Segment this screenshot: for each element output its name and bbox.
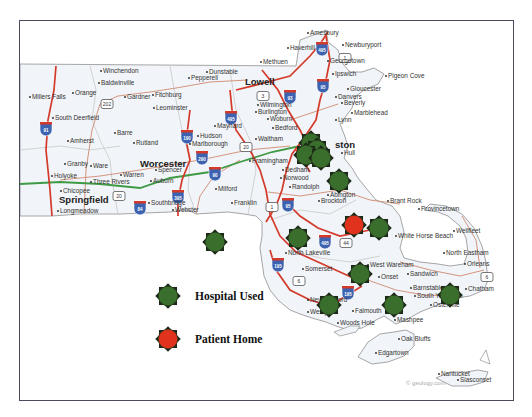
route-shield: 6 bbox=[293, 277, 305, 286]
legend: Hospital UsedPatient Home bbox=[155, 283, 264, 352]
city-label: Woods Hole bbox=[340, 319, 375, 326]
city-label: Falmouth bbox=[355, 307, 382, 314]
city-dot bbox=[398, 338, 400, 340]
city-dot bbox=[153, 107, 155, 109]
legend-patient-icon bbox=[155, 326, 181, 352]
city-label: Marlborough bbox=[192, 140, 228, 148]
city-dot bbox=[352, 310, 354, 312]
city-dot bbox=[172, 209, 174, 211]
city-dot bbox=[464, 263, 466, 265]
city-dot bbox=[285, 252, 287, 254]
city-dot bbox=[280, 177, 282, 179]
city-dot bbox=[148, 202, 150, 204]
city-dot bbox=[307, 299, 309, 301]
city-label: Amherst bbox=[70, 137, 94, 144]
city-dot bbox=[327, 60, 329, 62]
city-label: Millers Falls bbox=[32, 93, 66, 100]
city-label: Siasconset bbox=[460, 376, 491, 383]
city-dot bbox=[410, 287, 412, 289]
route-shield: 3 bbox=[257, 92, 269, 101]
major-city-label: Worcester bbox=[140, 158, 187, 169]
shield-number: 190 bbox=[183, 136, 191, 141]
city-label: Franklin bbox=[234, 199, 257, 206]
city-dot bbox=[287, 47, 289, 49]
city-dot bbox=[51, 175, 53, 177]
city-dot bbox=[335, 119, 337, 121]
city-label: Wellfleet bbox=[456, 227, 481, 234]
hospital-marker-icon[interactable] bbox=[366, 215, 392, 241]
city-dot bbox=[414, 295, 416, 297]
city-label: Framingham bbox=[252, 157, 288, 165]
city-dot bbox=[90, 181, 92, 183]
city-label: Barnstable bbox=[413, 284, 444, 291]
shield-number: 202 bbox=[103, 101, 112, 107]
city-label: Woburn bbox=[270, 115, 293, 122]
shield-number: 20 bbox=[116, 193, 122, 199]
city-dot bbox=[337, 322, 339, 324]
hospital-marker-icon[interactable] bbox=[316, 292, 342, 318]
city-label: Ipswich bbox=[335, 70, 357, 78]
city-dot bbox=[385, 75, 387, 77]
city-label: Provincetown bbox=[421, 205, 460, 212]
massachusetts-map: 9119049529090395849395495954951951952022… bbox=[0, 0, 532, 417]
city-label: Auburn bbox=[153, 177, 174, 184]
city-dot bbox=[90, 165, 92, 167]
city-dot bbox=[120, 174, 122, 176]
city-dot bbox=[342, 44, 344, 46]
city-label: Maynard bbox=[217, 122, 242, 130]
city-label: Baldwinville bbox=[101, 79, 135, 86]
city-dot bbox=[407, 273, 409, 275]
shield-number: 91 bbox=[43, 128, 49, 133]
city-label: Newburyport bbox=[345, 41, 381, 49]
city-dot bbox=[453, 230, 455, 232]
city-label: Gloucester bbox=[350, 85, 382, 92]
route-shield: 202 bbox=[101, 100, 113, 109]
hospital-marker-icon[interactable] bbox=[381, 292, 407, 318]
city-dot bbox=[255, 111, 257, 113]
city-dot bbox=[282, 169, 284, 171]
interstate-shield: 84 bbox=[134, 201, 146, 215]
city-dot bbox=[155, 169, 157, 171]
hospital-marker-icon[interactable] bbox=[347, 261, 373, 287]
city-dot bbox=[98, 82, 100, 84]
patient-home-marker-icon[interactable] bbox=[341, 212, 367, 238]
city-dot bbox=[100, 70, 102, 72]
city-dot bbox=[189, 143, 191, 145]
city-dot bbox=[67, 140, 69, 142]
city-dot bbox=[114, 132, 116, 134]
city-dot bbox=[214, 125, 216, 127]
city-dot bbox=[378, 276, 380, 278]
interstate-shield: 290 bbox=[196, 151, 208, 165]
city-label: Lynn bbox=[338, 116, 352, 124]
city-dot bbox=[465, 288, 467, 290]
interstate-shield: 495 bbox=[316, 42, 328, 56]
city-label: Leominster bbox=[156, 104, 188, 111]
city-label: Pigeon Cove bbox=[388, 72, 425, 80]
city-label: Pepperell bbox=[191, 74, 218, 82]
shield-number: 290 bbox=[198, 157, 206, 162]
city-dot bbox=[375, 352, 377, 354]
city-dot bbox=[341, 152, 343, 154]
city-dot bbox=[249, 160, 251, 162]
city-label: Somerset bbox=[305, 265, 333, 272]
hospital-marker-icon[interactable] bbox=[285, 225, 311, 251]
interstate-shield: 195 bbox=[272, 258, 284, 272]
city-dot bbox=[347, 88, 349, 90]
city-label: Hudson bbox=[200, 132, 222, 139]
map-credit: © geology.com bbox=[406, 380, 446, 386]
hospital-marker-icon[interactable] bbox=[308, 145, 334, 171]
city-label: Oak Bluffs bbox=[401, 335, 430, 342]
shield-number: 3 bbox=[262, 93, 265, 99]
city-dot bbox=[302, 268, 304, 270]
city-dot bbox=[387, 200, 389, 202]
city-label: Georgetown bbox=[330, 57, 365, 65]
shield-number: 1 bbox=[271, 204, 274, 210]
city-dot bbox=[231, 202, 233, 204]
city-dot bbox=[255, 138, 257, 140]
city-dot bbox=[57, 210, 59, 212]
hospital-marker-icon[interactable] bbox=[326, 168, 352, 194]
hospital-marker-icon[interactable] bbox=[437, 282, 463, 308]
city-label: Amesbury bbox=[310, 29, 340, 37]
city-dot bbox=[188, 77, 190, 79]
hospital-marker-icon[interactable] bbox=[202, 229, 228, 255]
